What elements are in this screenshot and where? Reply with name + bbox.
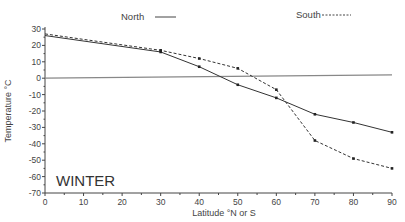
y-tick-label: -60 [29,172,42,182]
y-tick-label: -30 [29,122,42,132]
data-point-marker [236,67,239,70]
data-point-marker [391,167,394,170]
x-tick-label: 30 [156,197,166,207]
temperature-chart: 3020100-10-20-30-40-50-60-70010203040506… [0,0,405,222]
x-tick-label: 0 [43,197,48,207]
y-tick-label: 20 [32,40,42,50]
data-point-marker [275,97,278,100]
series-south-line [45,34,392,168]
data-point-marker [159,49,162,52]
y-tick-label: 10 [32,57,42,67]
x-tick-label: 50 [233,197,243,207]
data-point-marker [352,121,355,124]
x-axis-title: Latitude °N or S [192,208,256,218]
y-tick-label: -20 [29,106,42,116]
y-tick-label: -50 [29,155,42,165]
data-point-marker [352,157,355,160]
data-point-marker [198,57,201,60]
legend-north-label: North [121,11,144,22]
season-label: WINTER [56,172,115,189]
data-point-marker [236,83,239,86]
y-tick-label: -10 [29,90,42,100]
x-tick-label: 20 [117,197,127,207]
y-tick-label: -40 [29,139,42,149]
series-layer [45,34,393,170]
series-north-line [45,36,392,133]
x-tick-label: 90 [387,197,397,207]
y-tick-label: -70 [29,188,42,198]
data-point-marker [198,65,201,68]
x-tick-label: 80 [349,197,359,207]
data-point-marker [314,113,317,116]
legend-south-label: South [296,9,321,20]
data-point-marker [275,88,278,91]
legend: North South [121,9,351,22]
y-tick-label: 0 [36,73,41,83]
data-point-marker [391,131,394,134]
x-tick-label: 70 [310,197,320,207]
y-tick-label: 30 [32,24,42,34]
x-tick-label: 10 [79,197,89,207]
y-axis-title: Temperature °C [3,79,13,143]
x-tick-label: 60 [272,197,282,207]
x-tick-label: 40 [194,197,204,207]
data-point-marker [314,139,317,142]
